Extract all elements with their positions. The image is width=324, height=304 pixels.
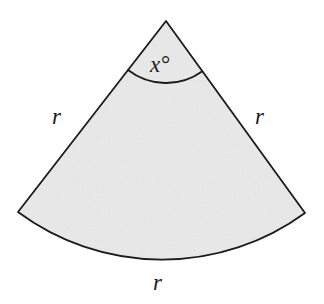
sector-drawing — [0, 0, 324, 304]
sector-figure: r r r x° — [0, 0, 324, 304]
label-arc-length: r — [153, 271, 162, 294]
label-radius-left: r — [52, 105, 61, 128]
label-radius-right: r — [255, 105, 264, 128]
label-central-angle: x° — [150, 53, 169, 76]
